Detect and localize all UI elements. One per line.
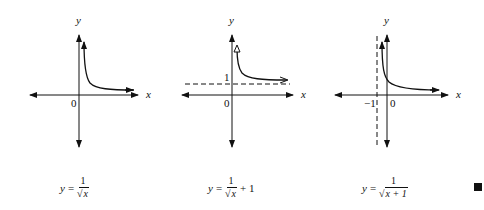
origin-label: 0 — [71, 97, 77, 109]
asymptote-label: −1 — [364, 97, 376, 109]
curve — [382, 42, 438, 90]
formula-2: y = 1 √x + 1 — [208, 176, 255, 199]
x-axis-label: x — [455, 88, 461, 100]
fraction: 1 √x + 1 — [379, 176, 408, 199]
formula-eq: = — [68, 182, 74, 194]
end-of-proof-square-icon — [474, 183, 482, 191]
denominator: √x — [225, 188, 237, 199]
radicand: x + 1 — [385, 187, 408, 199]
asymptote-label: 1 — [224, 71, 230, 83]
y-axis-label: y — [383, 14, 389, 26]
origin-label: 0 — [224, 97, 230, 109]
graph-3: y x 0 −1 — [335, 14, 461, 147]
formula-lhs: y — [208, 182, 213, 194]
radicand: x — [83, 187, 89, 199]
denominator: √x — [77, 188, 89, 199]
formula-eq: = — [370, 182, 376, 194]
y-axis-label: y — [228, 14, 234, 26]
formula-3: y = 1 √x + 1 — [362, 176, 408, 199]
x-axis-label: x — [300, 88, 306, 100]
fraction: 1 √x — [77, 176, 89, 199]
graph-2: y x 0 1 — [182, 14, 306, 147]
fraction: 1 √x — [225, 176, 237, 199]
x-axis-label: x — [145, 88, 151, 100]
curve — [237, 48, 286, 80]
formula-lhs: y — [60, 182, 65, 194]
radicand: x — [231, 187, 237, 199]
denominator: √x + 1 — [379, 188, 408, 199]
origin-label: 0 — [390, 97, 396, 109]
formula-lhs: y — [362, 182, 367, 194]
curve — [84, 42, 134, 90]
y-axis-label: y — [75, 14, 81, 26]
graph-1: y x 0 — [30, 14, 151, 147]
formula-suffix: + 1 — [240, 182, 254, 194]
formula-1: y = 1 √x — [60, 176, 89, 199]
open-arrow-top — [234, 45, 240, 52]
formula-eq: = — [216, 182, 222, 194]
